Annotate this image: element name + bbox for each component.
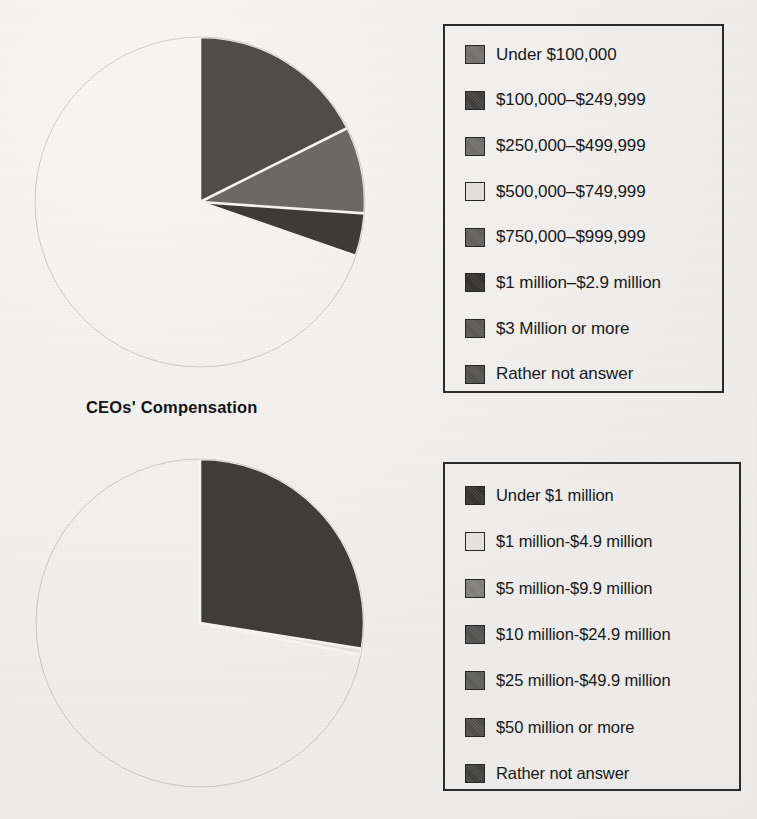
legend-item[interactable]: Rather not answer bbox=[465, 764, 739, 783]
ceo-compensation-pie-svg bbox=[32, 36, 368, 368]
legend-item-label: $500,000–$749,999 bbox=[496, 182, 646, 202]
legend-item[interactable]: $50 million or more bbox=[465, 718, 739, 737]
legend-item-label: $10 million-$24.9 million bbox=[496, 625, 671, 644]
legend-swatch-icon bbox=[465, 671, 485, 690]
legend-item-label: $5 million-$9.9 million bbox=[496, 579, 652, 598]
pie-slice[interactable] bbox=[200, 459, 364, 649]
legend-swatch-icon bbox=[465, 182, 485, 201]
legend-item-label: $1 million–$2.9 million bbox=[496, 273, 661, 293]
legend-swatch-icon bbox=[465, 45, 485, 64]
legend-swatch-icon bbox=[465, 532, 485, 551]
legend-item-label: $3 Million or more bbox=[496, 319, 629, 339]
legend-swatch-icon bbox=[465, 764, 485, 783]
legend-item-label: $100,000–$249,999 bbox=[496, 90, 646, 110]
legend-item-label: Under $1 million bbox=[496, 486, 614, 505]
page-title: CEOs' Compensation bbox=[86, 398, 258, 417]
legend-swatch-icon bbox=[465, 365, 485, 384]
legend-item[interactable]: $500,000–$749,999 bbox=[465, 182, 722, 202]
legend-item-label: $50 million or more bbox=[496, 718, 634, 737]
legend-swatch-icon bbox=[465, 718, 485, 737]
legend-item[interactable]: Under $100,000 bbox=[465, 45, 722, 65]
legend-item[interactable]: $1 million-$4.9 million bbox=[465, 532, 739, 551]
legend-item[interactable]: $25 million-$49.9 million bbox=[465, 671, 739, 690]
legend-list: Under $1 million $1 million-$4.9 million… bbox=[445, 464, 739, 805]
company-revenue-pie-chart bbox=[33, 458, 367, 788]
legend-item-label: Rather not answer bbox=[496, 364, 633, 384]
legend-swatch-icon bbox=[465, 228, 485, 247]
legend-swatch-icon bbox=[465, 319, 485, 338]
ceo-compensation-pie-chart bbox=[32, 36, 368, 368]
legend-item-label: $25 million-$49.9 million bbox=[496, 671, 671, 690]
legend-item[interactable]: $3 Million or more bbox=[465, 319, 722, 339]
company-revenue-pie-svg bbox=[33, 458, 367, 788]
legend-item[interactable]: $1 million–$2.9 million bbox=[465, 273, 722, 293]
legend-swatch-icon bbox=[465, 273, 485, 292]
legend-list: Under $100,000 $100,000–$249,999 $250,00… bbox=[445, 26, 722, 403]
legend-item-label: $1 million-$4.9 million bbox=[496, 532, 652, 551]
legend-item[interactable]: $750,000–$999,999 bbox=[465, 227, 722, 247]
legend-item[interactable]: Rather not answer bbox=[465, 364, 722, 384]
legend-swatch-icon bbox=[465, 579, 485, 598]
legend-item[interactable]: $10 million-$24.9 million bbox=[465, 625, 739, 644]
company-revenue-legend: Under $1 million $1 million-$4.9 million… bbox=[443, 462, 741, 791]
legend-item-label: $750,000–$999,999 bbox=[496, 227, 646, 247]
legend-item-label: Under $100,000 bbox=[496, 45, 617, 65]
legend-item[interactable]: $250,000–$499,999 bbox=[465, 136, 722, 156]
legend-item-label: Rather not answer bbox=[496, 764, 629, 783]
legend-item[interactable]: Under $1 million bbox=[465, 486, 739, 505]
ceo-compensation-legend: Under $100,000 $100,000–$249,999 $250,00… bbox=[443, 24, 724, 393]
legend-swatch-icon bbox=[465, 625, 485, 644]
legend-swatch-icon bbox=[465, 91, 485, 110]
legend-item-label: $250,000–$499,999 bbox=[496, 136, 646, 156]
legend-item[interactable]: $100,000–$249,999 bbox=[465, 90, 722, 110]
legend-item[interactable]: $5 million-$9.9 million bbox=[465, 579, 739, 598]
legend-swatch-icon bbox=[465, 137, 485, 156]
legend-swatch-icon bbox=[465, 486, 485, 505]
